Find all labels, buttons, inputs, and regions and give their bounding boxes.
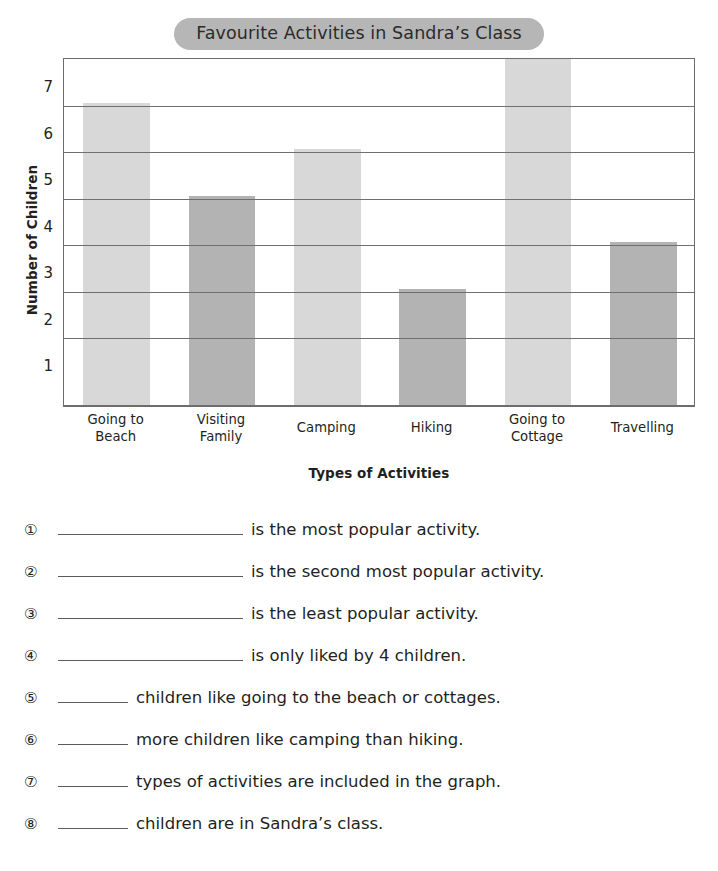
x-axis-tick-labels: Going toBeachVisitingFamilyCampingHiking…	[63, 412, 695, 462]
answer-blank[interactable]	[58, 521, 243, 535]
y-tick-label: 7	[43, 80, 53, 95]
answer-blank[interactable]	[58, 815, 128, 829]
bar-going-to-beach	[83, 103, 149, 405]
question-number: ②	[24, 563, 58, 581]
x-tick-label: Going toBeach	[63, 412, 168, 445]
y-tick-label: 3	[43, 266, 53, 281]
question-number: ③	[24, 605, 58, 623]
y-tick-label: 4	[43, 219, 53, 234]
bar-hiking	[399, 289, 465, 405]
question-row: ④is only liked by 4 children.	[0, 646, 718, 688]
plot-area	[63, 58, 695, 407]
bar-visiting-family	[189, 196, 255, 405]
answer-blank[interactable]	[58, 605, 243, 619]
x-axis-title: Types of Activities	[63, 465, 695, 481]
question-row: ⑦types of activities are included in the…	[0, 772, 718, 814]
bars-layer	[64, 59, 694, 405]
question-text: children like going to the beach or cott…	[136, 688, 501, 708]
questions-list: ①is the most popular activity.②is the se…	[0, 520, 718, 856]
answer-blank[interactable]	[58, 563, 243, 577]
question-row: ③is the least popular activity.	[0, 604, 718, 646]
question-text: is the second most popular activity.	[251, 562, 544, 582]
x-tick-label: Travelling	[590, 420, 695, 437]
question-text: is the least popular activity.	[251, 604, 479, 624]
question-text: is the most popular activity.	[251, 520, 480, 540]
x-tick-label: Camping	[274, 420, 379, 437]
question-text: types of activities are included in the …	[136, 772, 501, 792]
bar-travelling	[610, 242, 676, 405]
question-row: ⑤children like going to the beach or cot…	[0, 688, 718, 730]
y-tick-label: 2	[43, 312, 53, 327]
y-tick-label: 1	[43, 359, 53, 374]
question-row: ⑧children are in Sandra’s class.	[0, 814, 718, 856]
question-number: ⑧	[24, 815, 58, 833]
bar-going-to-cottage	[505, 59, 571, 405]
answer-blank[interactable]	[58, 773, 128, 787]
question-row: ①is the most popular activity.	[0, 520, 718, 562]
answer-blank[interactable]	[58, 689, 128, 703]
question-text: more children like camping than hiking.	[136, 730, 464, 750]
y-tick-label: 5	[43, 173, 53, 188]
y-axis-tick-labels: 1234567	[0, 58, 63, 407]
chart-title-container: Favourite Activities in Sandra’s Class	[0, 18, 718, 50]
bar-camping	[294, 149, 360, 405]
answer-blank[interactable]	[58, 647, 243, 661]
question-number: ①	[24, 521, 58, 539]
x-tick-label: Hiking	[379, 420, 484, 437]
question-text: is only liked by 4 children.	[251, 646, 466, 666]
y-tick-label: 6	[43, 126, 53, 141]
chart-title: Favourite Activities in Sandra’s Class	[174, 18, 544, 50]
question-text: children are in Sandra’s class.	[136, 814, 383, 834]
bar-chart: Number of Children 1234567 Going toBeach…	[0, 52, 718, 492]
question-row: ②is the second most popular activity.	[0, 562, 718, 604]
answer-blank[interactable]	[58, 731, 128, 745]
question-number: ⑤	[24, 689, 58, 707]
question-row: ⑥more children like camping than hiking.	[0, 730, 718, 772]
x-tick-label: Going toCottage	[484, 412, 589, 445]
question-number: ⑦	[24, 773, 58, 791]
x-tick-label: VisitingFamily	[168, 412, 273, 445]
question-number: ⑥	[24, 731, 58, 749]
question-number: ④	[24, 647, 58, 665]
